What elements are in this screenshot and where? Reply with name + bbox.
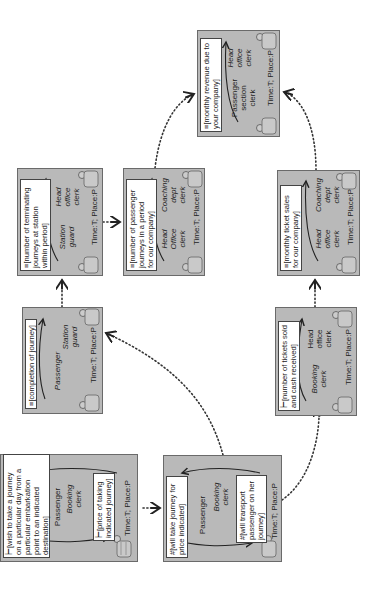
role-right: Coaching dept clerk bbox=[160, 173, 187, 217]
time-place-label: Time:T; Place:P bbox=[270, 483, 279, 539]
role-right: Head office clerk bbox=[306, 319, 333, 359]
role-left: Passenger section clerk bbox=[230, 74, 257, 122]
flow-passenger-to-revenue bbox=[155, 94, 194, 168]
role-right: Coaching dept clerk bbox=[314, 173, 341, 217]
interaction-box-terminating: ≡[number of terminating journeys at stat… bbox=[17, 168, 103, 276]
role-left: Passenger bbox=[53, 487, 62, 527]
person-figure-left bbox=[79, 381, 103, 413]
diagram-canvas: ⊢[wish to take a journey on a particular… bbox=[0, 0, 370, 597]
role-left: Head Office clerk bbox=[160, 219, 187, 259]
role-left: Booking clerk bbox=[310, 359, 328, 399]
reply-note: ⊢[price of taking indicated journey] bbox=[93, 473, 115, 541]
time-place-label: Time:T; Place:P bbox=[344, 329, 353, 385]
message-note: ≡[monthly revenue due to your company] bbox=[200, 38, 222, 132]
interaction-box-will-take: #[will take journey for price indicated]… bbox=[163, 455, 282, 562]
interaction-box-revenue: ≡[monthly revenue due to your company] P… bbox=[197, 30, 280, 137]
flow-will-take-to-completion bbox=[106, 333, 223, 455]
interaction-box-passenger-journeys: ≡[number of passenger journeys in a peri… bbox=[123, 168, 205, 276]
person-figure-left bbox=[78, 243, 102, 275]
role-right: Head office clerk bbox=[54, 177, 81, 217]
message-note: ≡[monthly ticket sales for our company] bbox=[280, 185, 302, 271]
person-figure-left bbox=[256, 104, 280, 136]
role-right: Booking clerk bbox=[212, 477, 230, 517]
interaction-box-completion: ≡[completion of journey] Passenger Stati… bbox=[22, 307, 103, 414]
role-left: Passenger bbox=[198, 495, 207, 535]
role-right: Station guard bbox=[61, 317, 79, 357]
time-place-label: Time:T; Place:P bbox=[266, 50, 275, 106]
role-left: Head office clerk bbox=[314, 219, 341, 259]
message-note: ≡[completion of journey] bbox=[25, 319, 37, 409]
reply-note: #[will transport passenger on her journe… bbox=[236, 475, 267, 543]
flow-monthly-to-revenue bbox=[284, 92, 316, 170]
time-place-label: Time:T; Place:P bbox=[123, 480, 132, 536]
interaction-box-wish: ⊢[wish to take a journey on a particular… bbox=[0, 454, 138, 562]
message-note: #[will take journey for price indicated] bbox=[166, 476, 188, 558]
time-place-label: Time:T; Place:P bbox=[89, 327, 98, 383]
interaction-box-tickets-sold: ⊢[number of tickets sold and cash receiv… bbox=[275, 307, 357, 416]
time-place-label: Time:T; Place:P bbox=[346, 189, 355, 245]
time-place-label: Time:T; Place:P bbox=[90, 189, 99, 245]
role-right: Head office clerk bbox=[226, 38, 253, 78]
message-note: ⊢[wish to take a journey on a particular… bbox=[3, 454, 50, 558]
person-figure-left bbox=[332, 383, 356, 415]
role-left: Station guard bbox=[58, 217, 76, 257]
message-note: ≡[number of terminating journeys at stat… bbox=[20, 179, 51, 271]
message-note: ≡[number of passenger journeys in a peri… bbox=[126, 179, 157, 271]
role-right: Booking clerk bbox=[65, 479, 83, 519]
flow-will-take-to-tickets-sold bbox=[282, 407, 319, 500]
time-place-label: Time:T; Place:P bbox=[192, 189, 201, 245]
interaction-box-monthly-sales: ≡[monthly ticket sales for our company] … bbox=[277, 170, 360, 276]
message-note: ⊢[number of tickets sold and cash receiv… bbox=[278, 321, 300, 411]
